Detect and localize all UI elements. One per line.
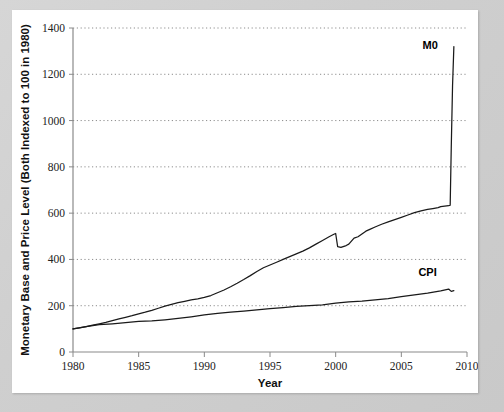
y-tick-label: 1400: [42, 22, 65, 34]
y-tick-label: 1200: [42, 68, 65, 80]
y-axis-ticks: 0200400600800100012001400: [42, 22, 73, 358]
axes: [73, 28, 467, 352]
y-tick-label: 200: [48, 300, 66, 312]
x-tick-label: 2010: [456, 360, 479, 372]
series-line-m0: [73, 47, 454, 329]
grid-lines: [73, 28, 467, 306]
x-tick-label: 1995: [259, 360, 282, 372]
screenshot-root: 0200400600800100012001400 19801985199019…: [0, 0, 504, 412]
x-tick-label: 2000: [324, 360, 347, 372]
y-tick-label: 400: [48, 253, 66, 265]
y-tick-label: 1000: [42, 115, 65, 127]
x-tick-label: 1980: [62, 360, 85, 372]
y-tick-label: 600: [48, 207, 66, 219]
series-label-cpi: CPI: [418, 266, 436, 278]
series-line-cpi: [73, 289, 454, 329]
series-paths: [73, 47, 454, 329]
figure-card: 0200400600800100012001400 19801985199019…: [12, 10, 478, 393]
y-tick-label: 800: [48, 161, 66, 173]
x-tick-label: 1985: [127, 360, 150, 372]
x-axis-ticks: 1980198519901995200020052010: [62, 352, 479, 372]
x-tick-label: 1990: [193, 360, 216, 372]
y-axis-title: Monetary Base and Price Level (Both Inde…: [19, 24, 31, 356]
line-chart: 0200400600800100012001400 19801985199019…: [12, 10, 478, 393]
y-tick-label: 0: [59, 346, 65, 358]
x-axis-title: Year: [258, 377, 283, 389]
series-label-m0: M0: [423, 39, 438, 51]
x-tick-label: 2005: [390, 360, 413, 372]
